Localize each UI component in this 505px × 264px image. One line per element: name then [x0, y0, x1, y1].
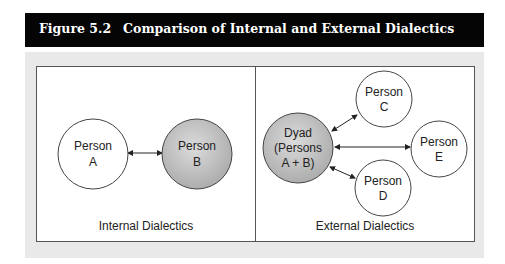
external-diagram: Dyad (Persons A + B) Person C Person E P…	[263, 71, 467, 233]
node-label: Person	[74, 139, 112, 153]
node-person-c: Person C	[356, 71, 412, 127]
internal-caption: Internal Dialectics	[99, 219, 194, 233]
node-label: A	[89, 155, 97, 169]
node-label: D	[379, 189, 388, 203]
dialectics-diagram: Person A Person B Internal Dialectics Dy…	[0, 0, 505, 264]
node-label: Person	[420, 135, 458, 149]
node-label: Person	[178, 139, 216, 153]
node-person-d: Person D	[355, 160, 411, 216]
node-label: (Persons	[274, 141, 322, 155]
internal-diagram: Person A Person B Internal Dialectics	[58, 119, 232, 233]
node-label: C	[380, 100, 389, 114]
node-label: Person	[365, 85, 403, 99]
external-caption: External Dialectics	[316, 219, 415, 233]
node-label: B	[193, 155, 201, 169]
node-label: A + B)	[281, 156, 314, 170]
node-person-b: Person B	[162, 119, 232, 189]
arrow-dyad-d	[330, 167, 355, 178]
node-person-e: Person E	[411, 121, 467, 177]
node-dyad: Dyad (Persons A + B)	[263, 113, 333, 183]
node-label: Person	[364, 174, 402, 188]
node-label: E	[435, 150, 443, 164]
node-person-a: Person A	[58, 119, 128, 189]
node-label: Dyad	[284, 126, 312, 140]
arrow-dyad-c	[332, 115, 357, 131]
